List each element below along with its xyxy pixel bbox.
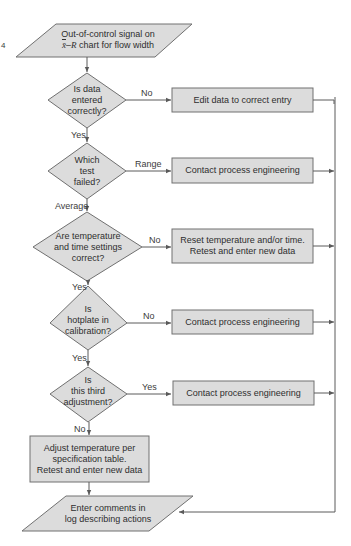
d5-side-label: Yes bbox=[142, 382, 157, 392]
action-a2-text: Contact process engineering bbox=[172, 158, 313, 183]
a6-line: Retest and enter new data bbox=[37, 465, 143, 476]
d1-down-label: Yes bbox=[71, 130, 86, 140]
d1-side-label: No bbox=[141, 88, 153, 98]
d4-line: Is bbox=[58, 304, 118, 315]
a6-line: specification table. bbox=[52, 454, 126, 465]
decision-d5-text: Is this third adjustment? bbox=[58, 375, 118, 408]
action-a5-text: Contact process engineering bbox=[173, 381, 314, 405]
action-a1-text: Edit data to correct entry bbox=[172, 88, 313, 112]
a3-line: Reset temperature and/or time. bbox=[180, 235, 305, 246]
end-line: Enter comments in bbox=[70, 503, 145, 514]
start-line-1: Out-of-control signal on bbox=[40, 29, 176, 40]
end-line: log describing actions bbox=[65, 514, 152, 525]
action-a4-text: Contact process engineering bbox=[172, 310, 313, 334]
d1-line: Is data bbox=[57, 84, 117, 95]
start-text: Out-of-control signal on x̄–R chart for … bbox=[40, 29, 176, 51]
d3-line: and time settings bbox=[38, 242, 138, 253]
d1-line: correctly? bbox=[57, 106, 117, 117]
d5-line: Is bbox=[58, 375, 118, 386]
decision-d2-text: Which test failed? bbox=[57, 155, 117, 188]
d4-line: hotplate in bbox=[58, 315, 118, 326]
decision-d1-text: Is data entered correctly? bbox=[57, 84, 117, 117]
d1-line: entered bbox=[57, 95, 117, 106]
a5-line: Contact process engineering bbox=[186, 388, 301, 399]
a3-line: Retest and enter new data bbox=[190, 246, 296, 257]
d4-line: calibration? bbox=[58, 326, 118, 337]
d3-line: correct? bbox=[38, 253, 138, 264]
start-line-2: x̄–R chart for flow width bbox=[40, 40, 176, 51]
d4-side-label: No bbox=[143, 311, 155, 321]
d4-down-label: Yes bbox=[72, 353, 87, 363]
d5-line: this third bbox=[58, 386, 118, 397]
d5-down-label: No bbox=[74, 424, 86, 434]
d3-down-label: Yes bbox=[72, 282, 87, 292]
d2-line: failed? bbox=[57, 177, 117, 188]
d5-line: adjustment? bbox=[58, 397, 118, 408]
a2-line: Contact process engineering bbox=[185, 165, 300, 176]
end-text: Enter comments in log describing actions bbox=[44, 496, 172, 531]
d2-side-label: Range bbox=[135, 159, 162, 169]
connector-a1-return bbox=[313, 100, 334, 104]
action-a3-text: Reset temperature and/or time. Retest an… bbox=[172, 229, 313, 263]
a4-line: Contact process engineering bbox=[185, 317, 300, 328]
decision-d3-text: Are temperature and time settings correc… bbox=[38, 231, 138, 264]
d2-line: test bbox=[57, 166, 117, 177]
d3-line: Are temperature bbox=[38, 231, 138, 242]
decision-d4-text: Is hotplate in calibration? bbox=[58, 304, 118, 337]
margin-mark: 4 bbox=[1, 41, 5, 51]
d2-line: Which bbox=[57, 155, 117, 166]
start-line-2-rest: chart for flow width bbox=[76, 40, 154, 50]
a1-line: Edit data to correct entry bbox=[193, 95, 291, 106]
d2-down-label: Average bbox=[55, 201, 88, 211]
action-a6-text: Adjust temperature per specification tab… bbox=[30, 436, 149, 482]
a6-line: Adjust temperature per bbox=[44, 443, 136, 454]
d3-side-label: No bbox=[149, 235, 161, 245]
